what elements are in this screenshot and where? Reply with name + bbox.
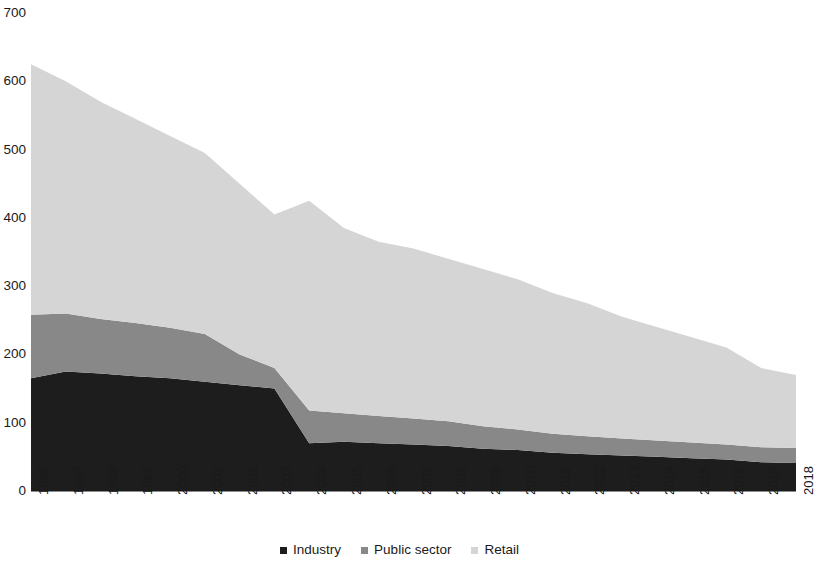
y-axis-tick-label: 400 <box>0 211 26 225</box>
y-axis: 7006005004003002001000 <box>0 0 31 505</box>
x-axis-tick-text: 2015 <box>698 449 712 495</box>
legend-label: Industry <box>293 543 341 557</box>
x-axis-tick-label: 2005 <box>337 495 351 541</box>
x-axis-tick-text: 1997 <box>72 449 86 495</box>
x-axis-tick-text: 1999 <box>141 449 155 495</box>
legend-label: Retail <box>484 543 519 557</box>
x-axis-tick-label: 1998 <box>94 495 108 541</box>
x-axis-tick-label: 2017 <box>754 495 768 541</box>
x-axis-tick-text: 2014 <box>663 449 677 495</box>
chart-legend: IndustryPublic sectorRetail <box>0 539 799 561</box>
x-axis-tick-text: 2010 <box>524 449 538 495</box>
x-axis-tick-label: 2013 <box>615 495 629 541</box>
y-axis-tick-label: 500 <box>0 143 26 157</box>
y-axis-tick-label: 600 <box>0 74 26 88</box>
plot-area <box>31 13 796 491</box>
x-axis-tick-text: 2011 <box>559 449 573 495</box>
x-axis-tick-label: 2007 <box>407 495 421 541</box>
legend-swatch-icon <box>361 547 368 554</box>
x-axis-tick-label: 2008 <box>441 495 455 541</box>
x-axis-tick-text: 2013 <box>628 449 642 495</box>
x-axis-tick-text: 2009 <box>489 449 503 495</box>
x-axis-tick-label: 2016 <box>719 495 733 541</box>
legend-item-public-sector[interactable]: Public sector <box>361 543 451 557</box>
x-axis-tick-label: 1997 <box>59 495 73 541</box>
legend-item-industry[interactable]: Industry <box>280 543 341 557</box>
x-axis-tick-text: 2008 <box>454 449 468 495</box>
x-axis-tick-label: 2009 <box>476 495 490 541</box>
x-axis-tick-label: 1996 <box>24 495 38 541</box>
x-axis-tick-text: 2007 <box>420 449 434 495</box>
x-axis-tick-text: 2017 <box>767 449 781 495</box>
legend-item-retail[interactable]: Retail <box>471 543 519 557</box>
x-axis-tick-label: 2006 <box>372 495 386 541</box>
x-axis-tick-label: 2003 <box>267 495 281 541</box>
x-axis-tick-label: 2014 <box>650 495 664 541</box>
plot-svg <box>31 13 796 491</box>
x-axis-tick-text: 2016 <box>732 449 746 495</box>
x-axis: 1996199719981999200020012002200320042005… <box>0 495 799 541</box>
x-axis-tick-label: 2000 <box>163 495 177 541</box>
legend-swatch-icon <box>471 547 478 554</box>
x-axis-tick-label: 2011 <box>546 495 560 541</box>
x-axis-tick-label: 2002 <box>233 495 247 541</box>
x-axis-tick-label: 2012 <box>580 495 594 541</box>
y-axis-tick-label: 300 <box>0 279 26 293</box>
x-axis-tick-text: 2000 <box>176 449 190 495</box>
x-axis-tick-text: 2002 <box>246 449 260 495</box>
x-axis-tick-text: 2006 <box>385 449 399 495</box>
x-axis-tick-label: 2004 <box>302 495 316 541</box>
x-axis-tick-text: 1998 <box>107 449 121 495</box>
x-axis-tick-text: 2012 <box>593 449 607 495</box>
x-axis-tick-label: 1999 <box>128 495 142 541</box>
x-axis-tick-text: 2001 <box>211 449 225 495</box>
x-axis-tick-text: 2018 <box>802 449 816 495</box>
x-axis-tick-text: 2004 <box>315 449 329 495</box>
x-axis-tick-label: 2015 <box>685 495 699 541</box>
y-axis-tick-label: 700 <box>0 6 26 20</box>
x-axis-tick-label: 2018 <box>789 495 803 541</box>
y-axis-tick-label: 100 <box>0 416 26 430</box>
x-axis-tick-text: 2003 <box>280 449 294 495</box>
x-axis-tick-label: 2010 <box>511 495 525 541</box>
x-axis-tick-label: 2001 <box>198 495 212 541</box>
y-axis-tick-label: 200 <box>0 347 26 361</box>
x-axis-tick-text: 1996 <box>37 449 51 495</box>
x-axis-tick-text: 2005 <box>350 449 364 495</box>
legend-label: Public sector <box>374 543 451 557</box>
legend-swatch-icon <box>280 547 287 554</box>
